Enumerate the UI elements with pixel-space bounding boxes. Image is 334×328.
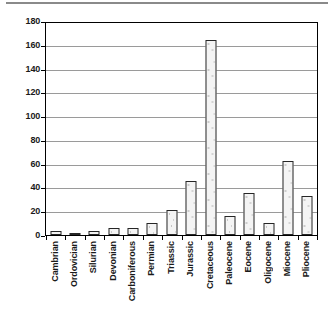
- x-axis-tick-label: Jurassic: [185, 241, 195, 277]
- bar[interactable]: [224, 216, 235, 235]
- bar-slot: [85, 23, 104, 235]
- x-axis-label-slot: Eocene: [239, 241, 258, 327]
- x-axis-label-slot: Carboniferous: [122, 241, 141, 327]
- x-axis-tick-label: Eocene: [243, 241, 253, 272]
- x-axis-tick-label: Cambrian: [50, 241, 60, 282]
- x-axis-tick-mark: [65, 236, 66, 240]
- bar-slot: [182, 23, 201, 235]
- x-axis-tick-label: Cretaceous: [205, 241, 215, 289]
- x-axis-tick-mark: [46, 236, 47, 240]
- x-axis-tick-mark: [85, 236, 86, 240]
- x-axis-tick-mark: [298, 236, 299, 240]
- x-axis-label-slot: Jurassic: [181, 241, 200, 327]
- x-axis-tick-mark: [201, 236, 202, 240]
- y-axis-tick-label: 100: [6, 112, 40, 121]
- x-axis-labels: CambrianOrdovicianSilurianDevonianCarbon…: [45, 241, 318, 327]
- x-axis-label-slot: Cretaceous: [200, 241, 219, 327]
- y-axis-tick-label: 20: [6, 207, 40, 216]
- x-axis-tick-mark: [240, 236, 241, 240]
- bar-slot: [46, 23, 65, 235]
- x-axis-tick-label: Oligocene: [263, 241, 273, 284]
- y-axis-tick-label: 180: [6, 17, 40, 26]
- bar-slot: [104, 23, 123, 235]
- bar[interactable]: [302, 196, 313, 235]
- x-axis-tick-label: Paleocene: [224, 241, 234, 285]
- bars-layer: [46, 23, 317, 235]
- x-axis-label-slot: Paleocene: [219, 241, 238, 327]
- x-axis-tick-label: Triassic: [166, 241, 176, 274]
- bar[interactable]: [70, 233, 81, 235]
- y-axis-tick-label: 40: [6, 183, 40, 192]
- bar[interactable]: [128, 228, 139, 235]
- x-axis-label-slot: Permian: [142, 241, 161, 327]
- y-axis-tick-label: 0: [6, 231, 40, 240]
- bar[interactable]: [263, 223, 274, 235]
- x-axis-tick-mark: [182, 236, 183, 240]
- y-axis-tick-label: 160: [6, 41, 40, 50]
- bar-slot: [123, 23, 142, 235]
- bar-slot: [162, 23, 181, 235]
- bar[interactable]: [166, 210, 177, 235]
- x-axis-label-slot: Devonian: [103, 241, 122, 327]
- x-axis-tick-mark: [104, 236, 105, 240]
- x-axis-tick-label: Miocene: [282, 241, 292, 276]
- bar-slot: [220, 23, 239, 235]
- bar[interactable]: [205, 40, 216, 236]
- page-top-rule: [6, 2, 328, 4]
- bar-slot: [201, 23, 220, 235]
- x-axis-tick-label: Permian: [146, 241, 156, 276]
- bar[interactable]: [89, 231, 100, 235]
- y-axis-tick-label: 140: [6, 65, 40, 74]
- bar-slot: [298, 23, 317, 235]
- x-axis-label-slot: Pliocene: [297, 241, 316, 327]
- bar-slot: [143, 23, 162, 235]
- x-axis-label-slot: Miocene: [277, 241, 296, 327]
- bar-slot: [65, 23, 84, 235]
- bar[interactable]: [50, 231, 61, 235]
- x-axis-tick-label: Carboniferous: [127, 241, 137, 301]
- bar-slot: [278, 23, 297, 235]
- x-axis-tick-mark: [123, 236, 124, 240]
- y-axis-tick-label: 60: [6, 160, 40, 169]
- bar[interactable]: [147, 223, 158, 235]
- x-axis-tick-mark: [162, 236, 163, 240]
- x-axis-tick-mark: [220, 236, 221, 240]
- y-axis-tick-label: 80: [6, 136, 40, 145]
- x-axis-tick-label: Pliocene: [301, 241, 311, 277]
- x-axis-tick-mark: [259, 236, 260, 240]
- x-axis-tick-mark: [278, 236, 279, 240]
- bar-chart-figure: 020406080100120140160180 CambrianOrdovic…: [0, 0, 334, 328]
- x-axis-tick-label: Devonian: [108, 241, 118, 281]
- bar[interactable]: [244, 193, 255, 235]
- x-axis-tick-mark: [143, 236, 144, 240]
- bar[interactable]: [186, 181, 197, 235]
- bar-slot: [240, 23, 259, 235]
- x-axis-label-slot: Triassic: [161, 241, 180, 327]
- x-axis-label-slot: Oligocene: [258, 241, 277, 327]
- bar-slot: [259, 23, 278, 235]
- x-axis-tick-label: Silurian: [88, 241, 98, 273]
- y-axis-tick-label: 120: [6, 88, 40, 97]
- x-axis-label-slot: Cambrian: [45, 241, 64, 327]
- x-axis-tick-label: Ordovician: [69, 241, 79, 287]
- bar[interactable]: [282, 161, 293, 235]
- x-axis-label-slot: Silurian: [84, 241, 103, 327]
- x-axis-label-slot: Ordovician: [64, 241, 83, 327]
- bar[interactable]: [108, 228, 119, 235]
- x-axis-tick-mark: [317, 236, 318, 240]
